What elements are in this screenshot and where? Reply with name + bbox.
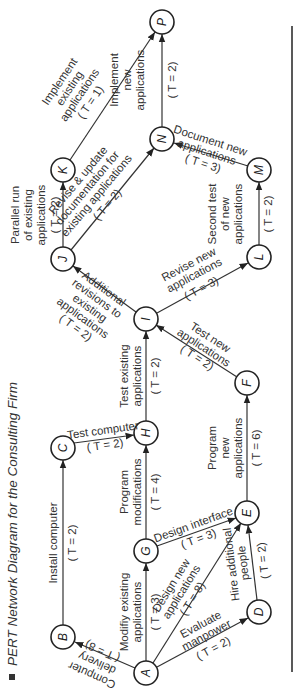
svg-text:Program: Program xyxy=(118,470,130,514)
svg-text:I: I xyxy=(139,317,153,321)
node-f: F xyxy=(235,371,259,395)
svg-text:K: K xyxy=(56,165,70,174)
svg-text:( T = 2): ( T = 2) xyxy=(86,436,124,453)
svg-text:D: D xyxy=(252,607,266,616)
svg-text:( T = 2): ( T = 2) xyxy=(66,524,78,561)
node-e: E xyxy=(235,501,259,525)
svg-text:Test computer: Test computer xyxy=(66,419,139,441)
node-l: L xyxy=(247,245,271,269)
svg-text:C: C xyxy=(56,443,70,452)
svg-text:B: B xyxy=(56,633,70,641)
svg-text:H: H xyxy=(139,428,153,437)
pert-diagram-page: PERT Network Diagram for the Consulting … xyxy=(0,0,301,696)
svg-text:J: J xyxy=(56,255,70,263)
label-a-g: Modifiy existing applications ( T = 3) xyxy=(118,573,161,652)
svg-text:applications: applications xyxy=(134,49,146,110)
svg-text:Implement: Implement xyxy=(108,52,120,106)
svg-text:( T = 2): ( T = 2) xyxy=(149,357,161,394)
node-b: B xyxy=(51,625,75,649)
svg-text:new: new xyxy=(121,69,133,91)
label-k-p: Implement existing applications ( T = 1) xyxy=(38,53,113,131)
label-i-l: Revise new applications ( T = 3) xyxy=(159,245,231,308)
activity-labels: Computer delivery ( T = 8) Install compu… xyxy=(9,49,274,691)
svg-text:( T = 4): ( T = 4) xyxy=(149,473,161,510)
label-i-j: Additional revisions to existing applica… xyxy=(48,266,133,350)
svg-text:( T = 2): ( T = 2) xyxy=(262,195,274,232)
svg-text:Parallel run: Parallel run xyxy=(9,186,21,244)
svg-text:applications: applications xyxy=(35,184,47,245)
pert-network: A B C D E F G H I J K L M N P Computer d… xyxy=(0,0,301,696)
svg-text:of existing: of existing xyxy=(22,189,34,241)
label-m-n: Document new applications ( T = 3) xyxy=(165,123,250,181)
svg-text:Second test: Second test xyxy=(206,183,218,245)
svg-text:applications: applications xyxy=(131,345,143,406)
label-e-f: Program new applications ( T = 6) xyxy=(206,417,262,478)
svg-text:G: G xyxy=(139,546,153,555)
svg-text:M: M xyxy=(252,165,266,175)
svg-text:( T = 2): ( T = 2) xyxy=(166,61,178,98)
label-g-h: Program modifications ( T = 4) xyxy=(118,458,161,525)
svg-text:Install computer: Install computer xyxy=(47,502,59,583)
node-j: J xyxy=(51,247,75,271)
svg-text:F: F xyxy=(240,379,254,387)
svg-text:A: A xyxy=(139,669,153,678)
label-d-e: Hire additional people ( T = 2) xyxy=(221,523,274,601)
svg-text:Modifiy existing: Modifiy existing xyxy=(118,573,130,652)
node-p: P xyxy=(150,10,174,34)
svg-text:( T = 2): ( T = 2) xyxy=(255,541,271,579)
node-d: D xyxy=(247,600,271,624)
label-l-m: Second test of new applications ( T = 2) xyxy=(206,183,274,245)
svg-text:N: N xyxy=(155,134,169,143)
node-n: N xyxy=(150,127,174,151)
svg-text:P: P xyxy=(155,18,169,26)
svg-text:applications: applications xyxy=(131,581,143,642)
svg-text:new: new xyxy=(219,437,231,459)
node-m: M xyxy=(247,158,271,182)
svg-text:applications: applications xyxy=(232,183,244,244)
edge-d-e xyxy=(248,525,257,600)
label-f-i: Test new applications ( T = 2) xyxy=(169,316,240,379)
svg-text:applications: applications xyxy=(232,417,244,478)
svg-text:L: L xyxy=(252,254,266,261)
node-i: I xyxy=(134,307,158,331)
svg-text:Test existing: Test existing xyxy=(118,344,130,407)
node-a: A xyxy=(134,661,158,685)
label-h-i: Test existing applications ( T = 2) xyxy=(118,344,161,407)
node-g: G xyxy=(134,539,158,563)
label-c-h: Test computer ( T = 2) xyxy=(66,419,141,456)
svg-text:( T = 6): ( T = 6) xyxy=(250,429,262,466)
label-n-p: Implement new applications ( T = 2) xyxy=(108,49,178,110)
svg-text:modifications: modifications xyxy=(131,458,143,525)
svg-text:of new: of new xyxy=(219,196,231,231)
svg-text:Program: Program xyxy=(206,426,218,470)
svg-text:E: E xyxy=(240,508,254,517)
